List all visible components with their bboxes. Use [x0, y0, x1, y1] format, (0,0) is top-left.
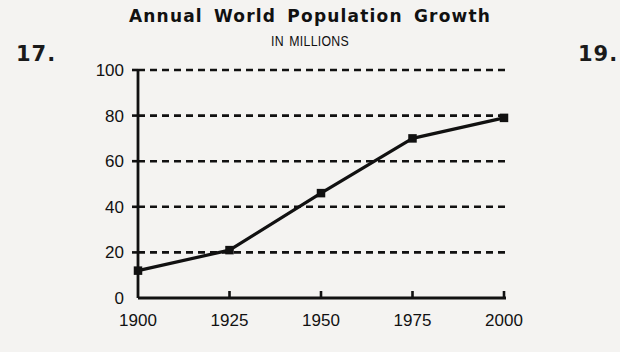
x-axis-tick-label: 1950	[302, 311, 340, 330]
y-axis-tick-label: 20	[105, 243, 124, 262]
x-axis-tick-label: 1975	[394, 311, 432, 330]
data-point-marker	[134, 266, 143, 275]
data-point-marker	[408, 134, 417, 143]
y-axis-tick-label: 80	[105, 107, 124, 126]
page-root: 17. 19. Annual World Population Growth I…	[0, 0, 620, 352]
axis-lines	[138, 70, 506, 298]
chart-plot-area: 020406080100 19001925195019752000	[0, 0, 620, 352]
data-point-marker	[500, 114, 509, 123]
data-point-marker	[317, 189, 326, 198]
x-axis-tick-labels: 19001925195019752000	[119, 311, 523, 330]
gridlines-group	[132, 70, 506, 252]
y-axis-tick-label: 40	[105, 198, 124, 217]
y-axis-tick-label: 0	[115, 289, 124, 308]
y-axis-tick-label: 60	[105, 152, 124, 171]
data-point-markers	[134, 114, 509, 275]
line-chart-svg: 020406080100 19001925195019752000	[0, 0, 620, 352]
x-axis-tick-label: 2000	[485, 311, 523, 330]
y-axis-tick-label: 100	[96, 61, 124, 80]
x-axis-tick-label: 1925	[211, 311, 249, 330]
y-axis-tick-labels: 020406080100	[96, 61, 124, 308]
x-axis-tick-label: 1900	[119, 311, 157, 330]
data-point-marker	[225, 246, 234, 255]
